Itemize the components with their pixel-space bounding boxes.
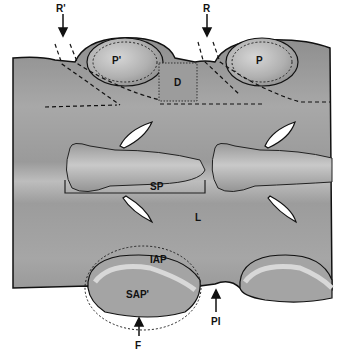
- label-d: D: [174, 77, 181, 88]
- label-sp: SP: [150, 181, 164, 192]
- label-r-prime: R': [56, 3, 66, 14]
- label-iap: IAP: [150, 254, 167, 265]
- label-r: R: [203, 3, 211, 14]
- facet-p-prime: [87, 38, 163, 86]
- label-p-prime: P': [112, 55, 121, 66]
- arrow-r-icon: [203, 28, 211, 36]
- label-p: P: [256, 55, 263, 66]
- label-l: L: [195, 212, 201, 223]
- label-f: F: [135, 340, 141, 351]
- arrow-pi-icon: [212, 290, 220, 298]
- label-sap-prime: SAP': [126, 289, 149, 300]
- lower-facet-left: [88, 255, 200, 317]
- spine-diagram: R' R P' P D SP L IAP SAP' F PI: [0, 0, 346, 360]
- arrow-r-prime-icon: [59, 28, 67, 36]
- label-pi: PI: [211, 316, 221, 327]
- arrow-f-icon: [135, 318, 143, 326]
